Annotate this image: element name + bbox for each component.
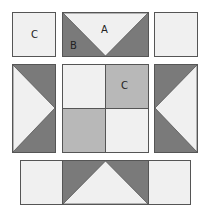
piece-label-c: C <box>31 29 38 40</box>
four-patch-bottom-left <box>63 109 106 153</box>
right-flying-geese <box>155 65 198 153</box>
piece-label-b: B <box>70 40 77 51</box>
bottom-right-rect <box>149 161 191 205</box>
bottom-strip <box>21 161 191 205</box>
piece-label-a: A <box>101 24 108 35</box>
top-right-square <box>155 13 198 57</box>
piece-label-c-center: C <box>121 80 128 91</box>
four-patch-top-left <box>63 65 106 109</box>
left-flying-geese <box>13 65 56 153</box>
four-patch-bottom-right <box>106 109 149 153</box>
top-left-square: C <box>13 13 56 57</box>
center-four-patch: C <box>63 65 149 153</box>
top-flying-geese: A B <box>63 13 149 57</box>
quilt-block-diagram: C A B C <box>0 0 207 215</box>
bottom-left-rect <box>21 161 63 205</box>
